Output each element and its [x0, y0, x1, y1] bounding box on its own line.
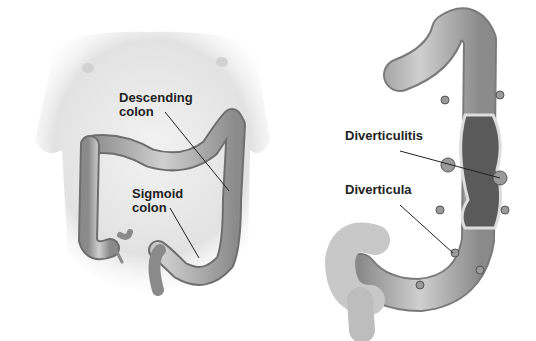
anatomy-illustration: [0, 0, 536, 341]
label-line-2: colon: [132, 201, 183, 215]
leader-diverticula: [400, 205, 453, 253]
label-line-1: Descending: [119, 91, 193, 105]
label-sigmoid-colon: Sigmoid colon: [132, 187, 183, 215]
label-diverticulitis: Diverticulitis: [345, 129, 423, 143]
nipple-right: [216, 57, 228, 67]
label-line-1: Sigmoid: [132, 187, 183, 201]
label-diverticula: Diverticula: [345, 183, 411, 197]
nipple-left: [82, 63, 94, 73]
label-descending-colon: Descending colon: [119, 91, 193, 119]
label-line-2: colon: [119, 105, 193, 119]
